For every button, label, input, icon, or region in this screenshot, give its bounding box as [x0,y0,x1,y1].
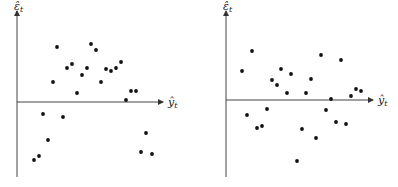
data-point [37,154,41,158]
data-point [104,67,108,71]
data-point [309,77,313,81]
y-axis-label: ε̂t [14,0,24,14]
data-point [65,66,69,70]
data-point [304,91,308,95]
data-point [255,126,259,130]
data-point [324,108,328,112]
data-point [41,112,45,116]
data-point [245,113,249,117]
residual-plots: ε̂tŷtε̂tŷt [0,0,398,187]
data-point [139,150,143,154]
data-point [260,124,264,128]
data-point [339,58,343,62]
data-point [359,89,363,93]
data-point [80,73,84,77]
data-point [265,107,269,111]
data-point [119,60,123,64]
data-point [270,78,274,82]
data-point [240,69,244,73]
data-point [314,136,318,140]
data-point [354,87,358,91]
scatter-chart-2: ε̂tŷt [223,0,388,177]
data-point [75,91,79,95]
data-point [349,94,353,98]
data-point [109,69,113,73]
data-point [300,127,304,131]
scatter-chart-1: ε̂tŷt [14,0,178,177]
data-point [134,89,138,93]
data-point [289,72,293,76]
data-point [250,49,254,53]
data-point [99,80,103,84]
x-axis-label: ŷt [377,94,388,108]
data-point [114,66,118,70]
data-point [124,98,128,102]
data-point [344,122,348,126]
data-point [89,42,93,46]
data-point [275,83,279,87]
x-axis-label: ŷt [167,96,178,110]
data-point [61,115,65,119]
data-point [129,89,133,93]
data-point [85,66,89,70]
data-point [144,131,148,135]
data-point [285,91,289,95]
data-point [279,67,283,71]
data-point [46,138,50,142]
data-point [94,48,98,52]
data-point [55,45,59,49]
data-point [329,97,333,101]
data-point [295,159,299,163]
data-point [319,53,323,57]
data-point [70,62,74,66]
y-axis-label: ε̂t [223,0,233,14]
data-point [51,80,55,84]
data-point [32,158,36,162]
data-point [334,120,338,124]
data-point [150,152,154,156]
